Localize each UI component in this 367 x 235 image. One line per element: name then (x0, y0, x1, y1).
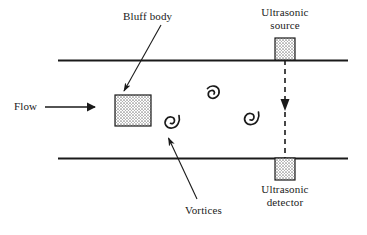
label-vortices: Vortices (185, 204, 222, 217)
leader-line-vortices (169, 138, 198, 199)
label-ultrasonic-source: Ultrasonic source (261, 6, 308, 31)
vortex-flowmeter-figure: Bluff body Flow Vortices Ultrasonic sour… (0, 0, 367, 235)
label-flow: Flow (14, 100, 37, 113)
ultrasonic-beam-arrowhead (281, 99, 290, 111)
label-ultrasonic-source-line1: Ultrasonic (261, 6, 308, 19)
label-ultrasonic-detector: Ultrasonic detector (261, 183, 308, 208)
label-ultrasonic-detector-line1: Ultrasonic (261, 183, 308, 196)
label-ultrasonic-detector-line2: detector (261, 196, 308, 209)
ultrasonic-source-block (275, 38, 295, 60)
vortex-near-body-icon (165, 116, 179, 129)
label-ultrasonic-source-line2: source (261, 19, 308, 32)
ultrasonic-detector-block (275, 158, 295, 180)
vortex-upper-icon (208, 86, 220, 98)
label-bluff-body: Bluff body (123, 10, 172, 23)
bluff-body-block (115, 95, 151, 126)
leader-line-bluff-body (124, 25, 161, 91)
vortex-downstream-icon (245, 112, 259, 125)
diagram-canvas (0, 0, 367, 235)
